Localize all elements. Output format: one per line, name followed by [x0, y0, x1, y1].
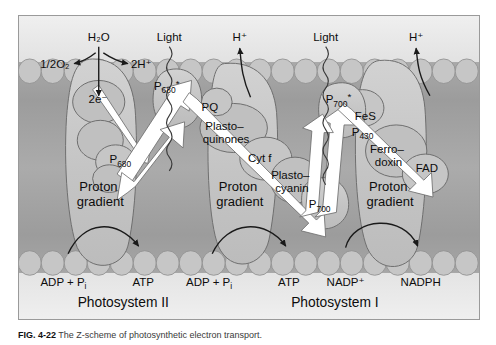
label-nadp-plus: NADP⁺	[327, 276, 365, 288]
label-proton-gradient-2: Proton gradient	[216, 179, 263, 209]
label-h-plus-psi: H⁺	[409, 31, 423, 43]
label-ferredoxin: Ferro– doxin	[370, 143, 407, 168]
label-cyt-f: Cyt f	[248, 152, 272, 164]
label-proton-gradient-1: Proton gradient	[77, 179, 124, 209]
label-half-o2: 1/2O₂	[40, 58, 69, 70]
label-photosystem-ii: Photosystem II	[78, 295, 169, 310]
label-light-psi: Light	[313, 31, 339, 43]
label-atp-2: ATP	[278, 276, 300, 288]
figure-stage: H₂O Light H⁺ Light H⁺ 1/2O₂ 2H⁺ 2e⁻ P680…	[0, 0, 496, 345]
label-2-electrons: 2e⁻	[89, 93, 108, 105]
figure-caption: FIG. 4-22 The Z-scheme of photosynthetic…	[18, 330, 478, 344]
figure-frame: H₂O Light H⁺ Light H⁺ 1/2O₂ 2H⁺ 2e⁻ P680…	[18, 15, 480, 320]
label-plastocyanin: Plasto– cyanin	[271, 169, 313, 194]
label-2h-plus: 2H⁺	[131, 58, 152, 70]
label-nadph: NADPH	[401, 276, 441, 288]
label-fes: FeS	[355, 110, 376, 122]
label-light-psii: Light	[157, 31, 183, 43]
label-pq: PQ	[201, 101, 218, 113]
label-fad: FAD	[416, 162, 438, 174]
label-h2o: H₂O	[88, 31, 110, 43]
label-photosystem-i: Photosystem I	[291, 295, 378, 310]
label-atp-1: ATP	[132, 276, 154, 288]
thylakoid-membrane-diagram: H₂O Light H⁺ Light H⁺ 1/2O₂ 2H⁺ 2e⁻ P680…	[19, 16, 479, 319]
figure-caption-text: The Z-scheme of photosynthetic electron …	[58, 330, 262, 340]
label-plastoquinones: Plasto– quinones	[203, 120, 250, 145]
label-proton-gradient-3: Proton gradient	[367, 179, 414, 209]
figure-caption-label: FIG. 4-22	[18, 330, 56, 340]
label-h-plus-psii: H⁺	[233, 31, 247, 43]
